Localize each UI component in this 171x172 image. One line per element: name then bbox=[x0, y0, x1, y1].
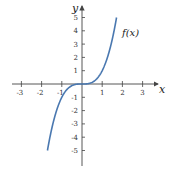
y-axis-label: y bbox=[71, 2, 79, 15]
y-tick-label: 2 bbox=[74, 54, 78, 62]
y-tick-label: 5 bbox=[74, 14, 78, 22]
x-tick-label: -2 bbox=[37, 89, 44, 97]
x-tick-label: -3 bbox=[16, 89, 23, 97]
y-tick-label: -1 bbox=[71, 94, 78, 102]
y-tick-label: -2 bbox=[71, 107, 78, 115]
function-label: f(x) bbox=[121, 27, 139, 38]
y-tick-label: -3 bbox=[71, 120, 78, 128]
y-tick-label: 3 bbox=[74, 41, 78, 49]
y-tick-label: 4 bbox=[74, 27, 79, 35]
y-tick-label: -4 bbox=[71, 134, 78, 142]
x-tick-label: 3 bbox=[140, 89, 144, 97]
x-tick-label: 2 bbox=[120, 89, 124, 97]
x-axis-label: x bbox=[159, 83, 166, 96]
chart-container: -3-2-1123 54321-1-2-3-4-5 x y f(x) bbox=[0, 0, 171, 172]
chart-plot: -3-2-1123 54321-1-2-3-4-5 x y f(x) bbox=[0, 0, 171, 172]
y-tick-label: -5 bbox=[71, 147, 78, 155]
y-tick-label: 1 bbox=[74, 67, 78, 75]
x-tick-label: 1 bbox=[100, 89, 104, 97]
